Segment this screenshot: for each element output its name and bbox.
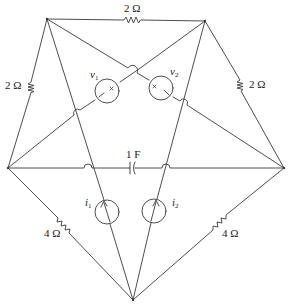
- label-r-bottom-right: 4 Ω: [222, 227, 238, 239]
- current-source-i1: [95, 200, 119, 224]
- voltage-source-v1: [95, 79, 119, 103]
- label-r-right: 2 Ω: [249, 78, 265, 90]
- wire-capacitor-branch: [8, 162, 284, 174]
- wire-i2-branch: [133, 21, 205, 300]
- label-capacitor: 1 F: [126, 148, 140, 160]
- voltage-source-v2: [149, 76, 173, 100]
- label-r-left: 2 Ω: [5, 79, 21, 91]
- node-dots: [7, 18, 285, 301]
- label-i2: i2: [172, 196, 179, 210]
- wire-i1-branch: [47, 19, 133, 300]
- circuit-diagram: 2 Ω 2 Ω 2 Ω 4 Ω 4 Ω 1 F v1 v2 i1 i2: [0, 0, 289, 308]
- label-v2: v2: [170, 65, 179, 79]
- wire-bottom-left-with-resistor: [8, 168, 133, 300]
- label-v1: v1: [90, 68, 99, 82]
- current-source-i2: [142, 199, 166, 223]
- wire-bottom-right-with-resistor: [133, 168, 284, 300]
- label-i1: i1: [85, 196, 92, 210]
- label-r-bottom-left: 4 Ω: [44, 227, 60, 239]
- wire-left-with-resistor: [8, 19, 47, 168]
- wire-top-with-resistor: [47, 17, 205, 23]
- wire-right-with-resistor: [205, 21, 284, 168]
- label-r-top: 2 Ω: [124, 2, 140, 14]
